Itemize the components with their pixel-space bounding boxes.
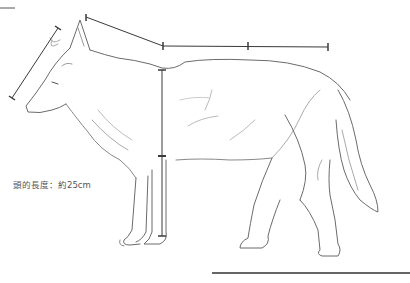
head-length-tick-end [55, 26, 61, 30]
head-length-label: 頭的長度：約25cm [13, 178, 91, 190]
back-length-line [163, 46, 328, 47]
neck-line [86, 17, 163, 46]
wolf-diagram: 頭的長度：約25cm [0, 0, 410, 283]
measurement-lines [9, 14, 328, 236]
head-length-tick-start [9, 96, 15, 100]
wolf-outline [26, 20, 378, 256]
wolf-sketch [0, 0, 410, 283]
head-length-line [12, 28, 58, 98]
